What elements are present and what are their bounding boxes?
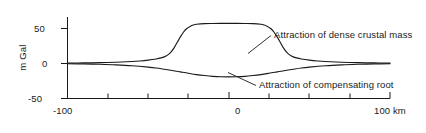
annotation-dense-crustal-mass: Attraction of dense crustal mass (274, 29, 412, 40)
gravity-anomaly-figure: m Gal 50 0 -50 -100 0 100 km Attraction … (0, 0, 426, 133)
x-tick-label-minus-100: -100 (53, 105, 72, 116)
annotation-compensating-root: Attraction of compensating root (259, 79, 394, 90)
y-axis-label: m Gal (17, 28, 28, 88)
x-axis-ticks (68, 92, 391, 99)
leader-line-crustal-mass (248, 36, 271, 54)
y-tick-label-50: 50 (34, 23, 45, 34)
curve-compensating-root (68, 64, 391, 77)
x-tick-label-100-km: 100 km (374, 105, 406, 116)
y-axis-ticks (61, 29, 68, 99)
y-tick-label-0: 0 (42, 58, 47, 69)
x-tick-label-0: 0 (235, 105, 240, 116)
leader-line-compensating-root (228, 73, 256, 86)
y-tick-label-minus-50: -50 (28, 93, 42, 104)
